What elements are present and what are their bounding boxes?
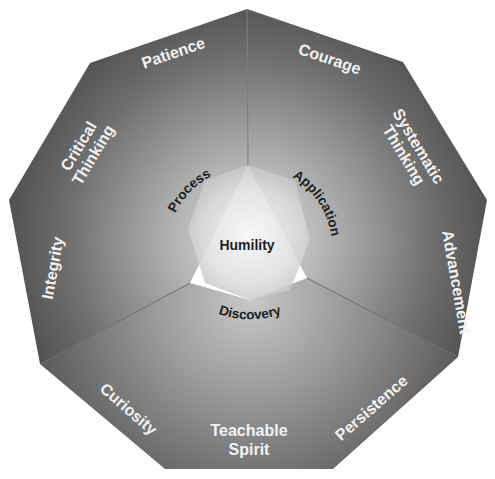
center-label: Humility [219, 237, 274, 253]
svg-text:Spirit: Spirit [229, 441, 271, 458]
center-hub [188, 165, 310, 300]
svg-text:Teachable: Teachable [210, 422, 287, 439]
radial-diagram: Humility Process Application Discovery P… [0, 0, 495, 479]
